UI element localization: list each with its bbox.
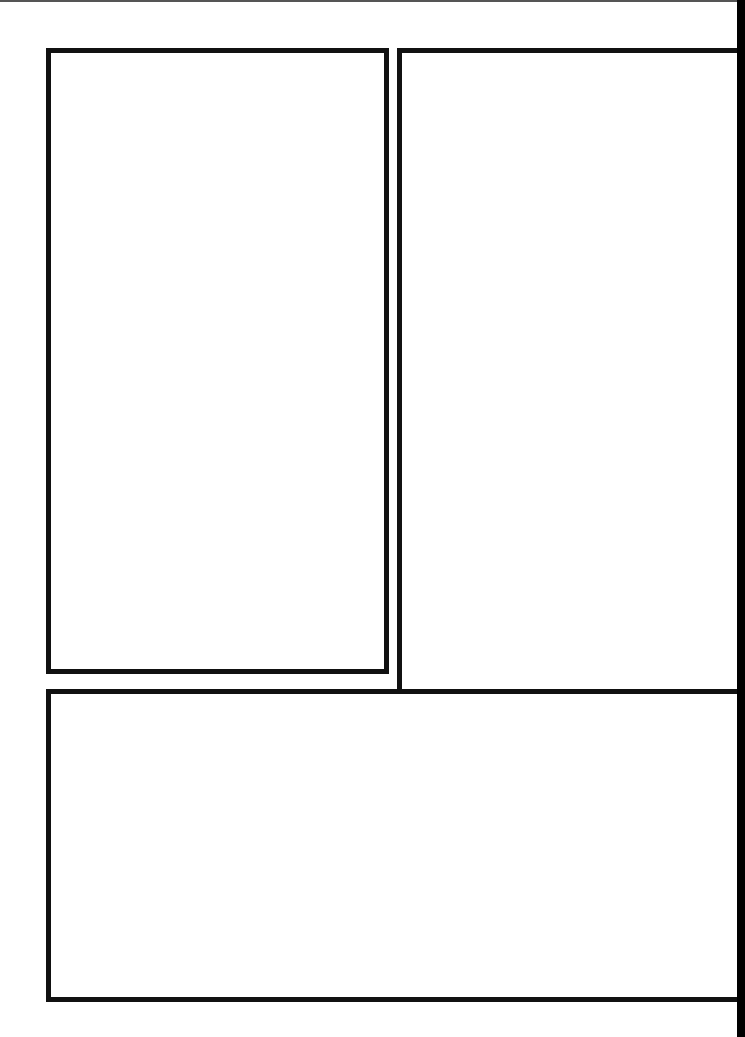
panel-bottom <box>46 689 745 1002</box>
panel-top-right <box>397 48 742 696</box>
panel-top-left <box>46 48 389 674</box>
page-right-edge <box>737 0 745 1037</box>
page-top-edge <box>0 0 745 2</box>
